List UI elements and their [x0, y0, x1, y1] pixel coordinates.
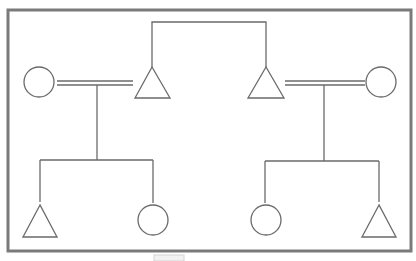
genogram-diagram	[0, 0, 416, 261]
page-tab	[154, 255, 184, 261]
right-wife-circle-icon	[366, 67, 396, 97]
right-child-1-circle-icon	[251, 205, 281, 235]
diagram-frame	[8, 10, 411, 251]
left-wife-circle-icon	[24, 67, 54, 97]
left-child-2-circle-icon	[138, 205, 168, 235]
